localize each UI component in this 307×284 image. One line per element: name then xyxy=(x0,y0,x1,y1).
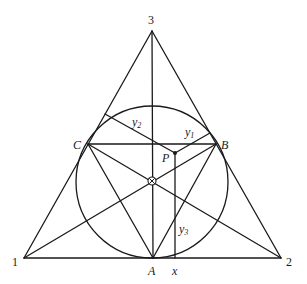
point-label-P: P xyxy=(161,151,170,165)
vertex-label-3: 3 xyxy=(148,13,154,27)
label-y2: y2 xyxy=(131,115,141,130)
point-P-dot xyxy=(173,151,177,155)
perpendicular-y2 xyxy=(105,114,175,153)
center-symbol-icon xyxy=(148,177,156,185)
vertex-label-1: 1 xyxy=(12,255,18,269)
median-B-1 xyxy=(24,144,216,258)
label-y1: y1 xyxy=(184,125,194,140)
label-y3: y3 xyxy=(178,222,188,237)
triangle-diagram: 3 1 2 A B C P x y1 y2 y3 xyxy=(0,0,307,284)
point-label-B: B xyxy=(221,138,229,152)
point-label-C: C xyxy=(73,138,82,152)
diagram-canvas: 3 1 2 A B C P x y1 y2 y3 xyxy=(0,0,307,284)
median-C-2 xyxy=(88,144,281,258)
vertex-label-2: 2 xyxy=(286,255,292,269)
point-label-A: A xyxy=(147,264,156,278)
axis-label-x: x xyxy=(171,264,178,278)
